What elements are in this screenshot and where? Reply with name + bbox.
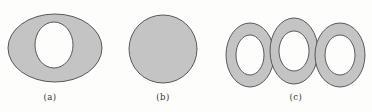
panel-b-circle — [129, 15, 197, 83]
panel-c-ring-2-hole — [279, 31, 309, 71]
panel-c-ring-3-hole — [325, 35, 355, 75]
panel-b-label: (b) — [156, 92, 170, 102]
panel-c-shape — [226, 18, 365, 87]
figure: (a) (b) (c) — [0, 0, 372, 112]
panel-c-ring-1-hole — [236, 35, 264, 75]
panel-a-label: (a) — [43, 92, 56, 102]
panel-a-shape — [8, 14, 102, 82]
panel-b-shape — [129, 15, 197, 83]
panel-a-hole — [35, 22, 73, 68]
panel-c-label: (c) — [290, 92, 303, 102]
